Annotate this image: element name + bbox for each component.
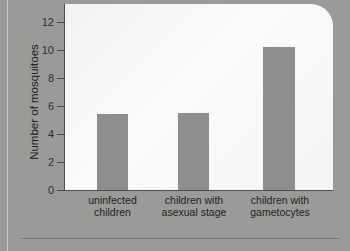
y-tick-mark-10 bbox=[57, 50, 64, 51]
x-axis-line bbox=[64, 190, 333, 191]
horizontal-divider bbox=[21, 238, 340, 239]
bar-chart-figure: 0 2 4 6 8 10 12 Number of mosquitoes uni… bbox=[0, 0, 350, 228]
y-axis-line bbox=[64, 4, 65, 191]
bar-children-with-gametocytes bbox=[263, 47, 295, 190]
x-category-label-0: uninfected children bbox=[72, 194, 153, 218]
y-tick-mark-12 bbox=[57, 22, 64, 23]
y-tick-mark-2 bbox=[57, 162, 64, 163]
y-tick-mark-4 bbox=[57, 134, 64, 135]
y-tick-mark-0 bbox=[57, 190, 64, 191]
y-axis-title: Number of mosquitoes bbox=[28, 12, 40, 192]
x-category-label-1: children with asexual stage bbox=[151, 194, 237, 218]
bar-uninfected-children bbox=[97, 114, 128, 190]
bar-children-with-asexual-stage bbox=[178, 113, 209, 190]
y-tick-mark-6 bbox=[57, 106, 64, 107]
y-tick-mark-8 bbox=[57, 78, 64, 79]
x-category-label-2: children with gametocytes bbox=[237, 194, 323, 218]
chart-page: 0 2 4 6 8 10 12 Number of mosquitoes uni… bbox=[0, 0, 350, 251]
figure-footer bbox=[0, 228, 350, 251]
